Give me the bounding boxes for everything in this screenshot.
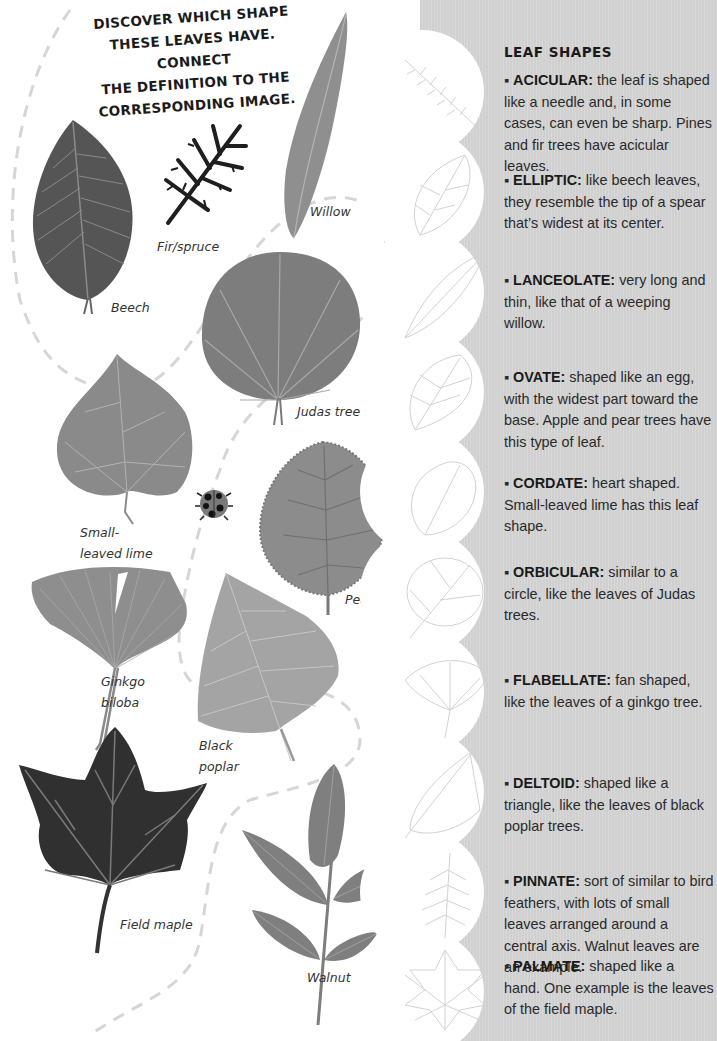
definition-term: PALMATE: [513,958,585,974]
bullet-icon: ▪ [504,672,509,688]
label-line: leaved lime [80,543,153,564]
leaf-label-ginkgo-biloba: Ginkgo biloba [101,671,145,713]
definition-lanceolate: ▪ LANCEOLATE: very long and thin, like t… [504,270,714,335]
bullet-icon: ▪ [504,564,509,580]
leaf-shapes-title: LEAF SHAPES [504,44,612,60]
leaf-label-walnut: Walnut [307,967,351,988]
definition-orbicular: ▪ ORBICULAR: similar to a circle, like t… [504,562,714,627]
fir-spruce-icon [158,118,248,228]
definition-flabellate: ▪ FLABELLATE: fan shaped, like the leave… [504,670,714,713]
bullet-icon: ▪ [504,775,509,791]
bullet-icon: ▪ [504,958,509,974]
leaf-label-judas-tree: Judas tree [297,401,360,422]
acicular-sketch-icon [400,50,490,140]
small-leaved-lime-leaf-icon [55,352,200,527]
definition-deltoid: ▪ DELTOID: shaped like a triangle, like … [504,773,714,838]
definition-term: ACICULAR: [513,72,593,88]
definition-term: PINNATE: [513,873,580,889]
beech-leaf-icon [28,118,148,318]
definition-term: OVATE: [513,369,565,385]
leaf-label-beech: Beech [111,297,150,318]
elliptic-sketch-icon [400,150,490,240]
definition-cordate: ▪ CORDATE: heart shaped. Small-leaved li… [504,473,714,538]
label-line: Small- [80,522,153,543]
definition-term: DELTOID: [513,775,580,791]
pinnate-sketch-icon [400,850,490,940]
definition-acicular: ▪ ACICULAR: the leaf is shaped like a ne… [504,70,714,178]
definition-term: ELLIPTIC: [513,172,582,188]
bullet-icon: ▪ [504,369,509,385]
leaf-label-field-maple: Field maple [120,914,193,935]
ovate-sketch-icon [400,350,490,440]
definition-elliptic: ▪ ELLIPTIC: like beech leaves, they rese… [504,170,714,235]
leaf-label-small-leaved-lime: Small- leaved lime [80,522,153,564]
lanceolate-sketch-icon [400,250,490,340]
bullet-icon: ▪ [504,873,509,889]
flabellate-sketch-icon [400,650,490,740]
orbicular-sketch-icon [400,550,490,640]
leaf-label-willow: Willow [310,201,351,222]
definition-term: FLABELLATE: [513,672,611,688]
definition-term: ORBICULAR: [513,564,604,580]
ladybug-icon [194,484,234,524]
palmate-sketch-icon [400,945,490,1035]
definition-ovate: ▪ OVATE: shaped like an egg, with the wi… [504,367,714,453]
label-line: Ginkgo [101,671,145,692]
bullet-icon: ▪ [504,272,509,288]
definition-term: LANCEOLATE: [513,272,615,288]
activity-instructions: DISCOVER WHICH SHAPE THESE LEAVES HAVE. … [90,0,297,123]
definition-palmate: ▪ PALMATE: shaped like a hand. One examp… [504,956,714,1021]
cordate-sketch-icon [400,450,490,540]
bullet-icon: ▪ [504,172,509,188]
bullet-icon: ▪ [504,475,509,491]
definition-term: CORDATE: [513,475,588,491]
bullet-icon: ▪ [504,72,509,88]
deltoid-sketch-icon [400,750,490,840]
leaf-shapes-panel: LEAF SHAPES ▪ ACICULAR: the leaf is shap… [420,0,717,1041]
label-line: biloba [101,692,145,713]
